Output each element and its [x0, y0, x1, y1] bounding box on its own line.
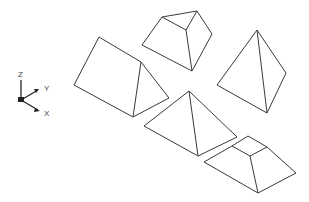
right-pyramid-shape[interactable]	[217, 30, 286, 113]
drawing-canvas: Z Y X	[0, 0, 309, 202]
middle-pyramid-shape[interactable]	[144, 91, 237, 156]
bottom-frustum-shape[interactable]	[204, 136, 296, 193]
wedge-shape[interactable]	[74, 37, 169, 117]
y-axis-label: Y	[44, 84, 50, 93]
top-frustum-shape[interactable]	[142, 11, 212, 71]
ucs-axis-icon: Z Y X	[18, 70, 50, 118]
z-axis-label: Z	[18, 70, 23, 79]
x-arrowhead-icon	[34, 108, 40, 112]
origin-marker	[18, 97, 24, 102]
x-axis-label: X	[44, 109, 50, 118]
